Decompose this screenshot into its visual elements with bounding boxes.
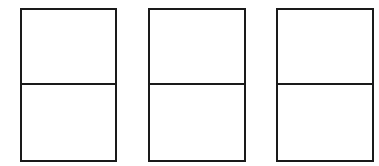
panel-2-bottom-cell	[150, 87, 244, 160]
panel-2	[148, 8, 246, 162]
panel-3-bottom-cell	[278, 87, 372, 160]
panel-3-top-cell	[278, 10, 372, 85]
panel-3	[276, 8, 374, 162]
panel-2-top-cell	[150, 10, 244, 85]
panel-1-top-cell	[22, 10, 115, 85]
panel-1	[20, 8, 117, 162]
panel-1-bottom-cell	[22, 87, 115, 160]
